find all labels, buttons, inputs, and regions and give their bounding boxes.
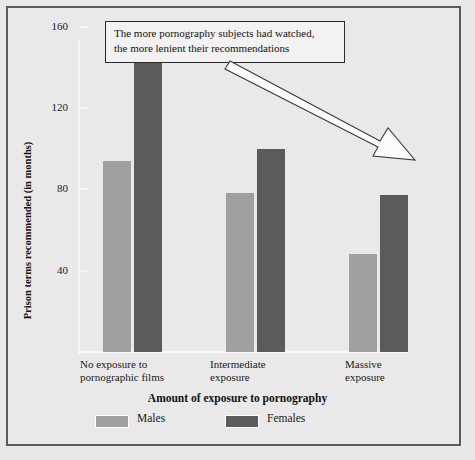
bar-females-group-3 — [380, 195, 408, 352]
category-label-3: Massiveexposure — [345, 358, 385, 384]
plot-area: 4080120160 No exposure topornographic fi… — [0, 0, 475, 460]
category-label-line: Massive — [345, 358, 385, 371]
legend-label-females: Females — [267, 412, 305, 424]
bar-males-group-3 — [349, 254, 377, 352]
bar-females-group-2 — [257, 149, 285, 352]
annotation-text-line: the more lenient their recommendations — [114, 41, 340, 56]
category-label-line: Intermediate — [210, 358, 266, 371]
legend: MalesFemales — [95, 413, 395, 433]
annotation-callout-text: The more pornography subjects had watche… — [114, 26, 340, 56]
annotation-arrow-icon — [210, 55, 425, 170]
y-axis-title: Prison terms recommended (in months) — [22, 131, 33, 331]
category-label-2: Intermediateexposure — [210, 358, 266, 384]
legend-swatch-males — [95, 415, 129, 428]
annotation-text-line: The more pornography subjects had watche… — [114, 26, 340, 41]
category-label-line: No exposure to — [80, 358, 164, 371]
bar-males-group-2 — [226, 193, 254, 352]
category-label-line: exposure — [210, 371, 266, 384]
legend-swatch-females — [225, 415, 259, 428]
bar-females-group-1 — [134, 61, 162, 352]
figure-canvas: 4080120160 No exposure topornographic fi… — [0, 0, 475, 460]
bar-males-group-1 — [103, 161, 131, 352]
x-axis-title: Amount of exposure to pornography — [0, 392, 475, 404]
category-label-line: exposure — [345, 371, 385, 384]
category-label-1: No exposure topornographic films — [80, 358, 164, 384]
category-label-line: pornographic films — [80, 371, 164, 384]
legend-label-males: Males — [137, 412, 165, 424]
